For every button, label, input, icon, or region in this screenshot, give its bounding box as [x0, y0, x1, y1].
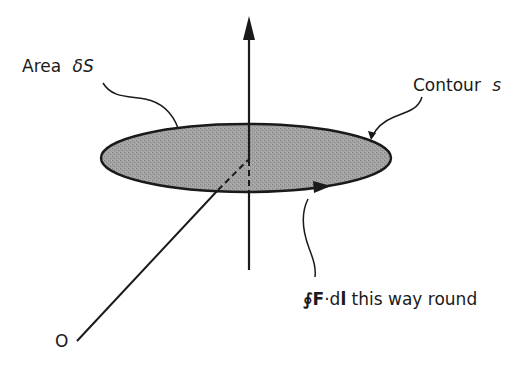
curl-diagram: Area δS Contour s ∮F·dl this way round O	[0, 0, 531, 367]
normal-arrow-icon	[243, 16, 255, 40]
position-line-outer	[77, 190, 218, 341]
integral-label: ∮F·dl this way round	[303, 289, 477, 309]
area-label: Area δS	[22, 56, 94, 76]
contour-leader-line	[372, 97, 422, 137]
origin-label: O	[55, 331, 68, 351]
integral-leader-line	[303, 199, 315, 277]
area-leader-line	[103, 83, 178, 128]
area-surface	[101, 124, 391, 192]
contour-label: Contour s	[413, 75, 501, 95]
